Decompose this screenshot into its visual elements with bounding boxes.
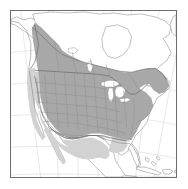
- map-frame: [10, 10, 177, 178]
- north-america-range-map: [11, 11, 176, 177]
- figure-container: [0, 0, 188, 189]
